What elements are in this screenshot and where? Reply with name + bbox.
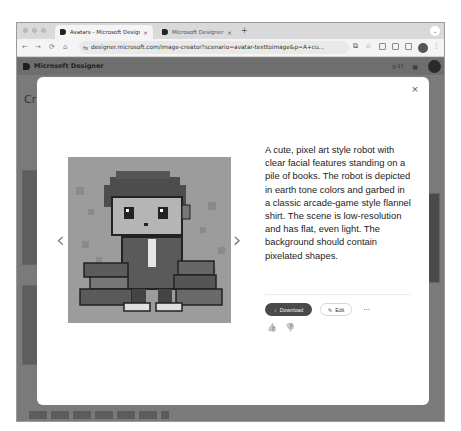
download-label: Download xyxy=(280,307,304,313)
close-dialog-button[interactable]: × xyxy=(408,82,422,96)
url-text: designer.microsoft.com/image-creator?sce… xyxy=(91,44,324,50)
download-button[interactable]: ↓ Download xyxy=(265,303,312,316)
close-tab-icon[interactable]: × xyxy=(227,29,232,36)
thumbs-down-icon[interactable]: 👎 xyxy=(285,323,295,332)
next-image-button[interactable]: › xyxy=(233,227,242,252)
tab-designer[interactable]: Microsoft Designer - Stunn × xyxy=(157,25,237,39)
tab-search-button[interactable]: ⌄ xyxy=(430,26,440,36)
edit-label: Edit xyxy=(335,307,344,313)
close-tab-icon[interactable]: × xyxy=(143,29,148,36)
app-brand[interactable]: Microsoft Designer xyxy=(23,62,104,70)
thumbs-up-icon[interactable]: 👍 xyxy=(267,323,277,332)
minimize-window-button[interactable] xyxy=(32,28,37,33)
edit-icon: ✎ xyxy=(328,307,332,313)
cast-icon[interactable]: ⧉ xyxy=(353,42,358,50)
window-controls xyxy=(23,28,46,33)
divider xyxy=(265,294,411,295)
tab-strip: Avatars - Microsoft Designer × Microsoft… xyxy=(17,23,444,39)
app-header: Microsoft Designer ◎ 15 ▦ xyxy=(17,58,444,75)
feedback-row: 👍 👎 xyxy=(267,323,295,332)
tab-groups-icon[interactable] xyxy=(392,43,399,50)
back-icon[interactable]: ← xyxy=(22,43,28,51)
pixel-robot-image xyxy=(68,157,231,323)
previous-image-button[interactable]: ‹ xyxy=(56,227,65,252)
reload-icon[interactable]: ⟳ xyxy=(49,43,55,51)
edit-button[interactable]: ✎ Edit xyxy=(320,303,352,316)
generated-image xyxy=(68,157,231,323)
bookmark-star-icon[interactable]: ☆ xyxy=(365,42,371,50)
credits-badge[interactable]: ◎ 15 xyxy=(392,63,404,69)
tab-title: Avatars - Microsoft Designer xyxy=(70,29,140,35)
close-window-button[interactable] xyxy=(23,28,28,33)
image-detail-dialog: × ‹ xyxy=(37,77,429,405)
home-icon[interactable]: ⌂ xyxy=(63,43,67,51)
designer-logo-icon xyxy=(60,29,66,35)
address-bar[interactable]: ⇆ designer.microsoft.com/image-creator?s… xyxy=(79,41,349,54)
tab-avatars[interactable]: Avatars - Microsoft Designer × xyxy=(55,25,153,39)
image-prompt-text: A cute, pixel art style robot with clear… xyxy=(265,143,411,262)
tab-title: Microsoft Designer - Stunn xyxy=(172,29,224,35)
download-icon: ↓ xyxy=(274,307,277,313)
designer-logo-icon xyxy=(23,63,30,70)
reading-list-icon[interactable] xyxy=(405,43,412,50)
designer-logo-icon xyxy=(162,29,168,35)
page-title: Cr xyxy=(24,93,36,106)
user-avatar[interactable] xyxy=(428,60,441,73)
profile-avatar[interactable] xyxy=(418,43,428,53)
forward-icon[interactable]: → xyxy=(35,43,41,51)
image-actions: ↓ Download ✎ Edit ··· xyxy=(265,303,373,316)
toolbar: ← → ⟳ ⌂ ⇆ designer.microsoft.com/image-c… xyxy=(17,39,444,57)
site-info-icon[interactable]: ⇆ xyxy=(83,41,88,54)
maximize-window-button[interactable] xyxy=(41,28,46,33)
new-tab-button[interactable]: + xyxy=(241,26,248,35)
browser-menu-icon[interactable]: ⋮ xyxy=(433,42,440,50)
app-name: Microsoft Designer xyxy=(34,62,104,70)
more-options-button[interactable]: ··· xyxy=(360,306,373,314)
notifications-icon[interactable]: ▦ xyxy=(412,63,418,70)
extension-icon[interactable] xyxy=(379,43,386,50)
thumbnail-strip xyxy=(29,411,169,419)
